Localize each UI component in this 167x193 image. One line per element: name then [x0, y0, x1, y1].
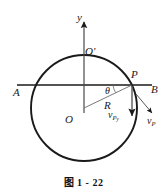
- point-b-label: B: [151, 84, 158, 95]
- circle-center-label: O: [65, 114, 73, 125]
- velocity-y-subscript-y: y: [116, 116, 118, 122]
- velocity-y-subscript: Py: [112, 114, 118, 121]
- figure-caption: 图 1 - 22: [0, 174, 167, 189]
- velocity-p-arrow: [136, 94, 152, 113]
- physics-diagram: [0, 0, 167, 193]
- y-axis-label: y: [77, 12, 82, 23]
- angle-theta-label: θ: [105, 86, 110, 96]
- point-p-label: P: [131, 69, 138, 80]
- velocity-p-subscript: P: [151, 120, 155, 127]
- figure-container: y O' A B P θ R vPy vP O 图 1 - 22: [0, 0, 167, 193]
- angle-arc: [113, 85, 116, 93]
- velocity-y-component-label: vPy: [108, 110, 119, 122]
- velocity-p-label: vP: [147, 116, 155, 127]
- point-a-label: A: [13, 87, 20, 98]
- point-o-prime-label: O': [85, 46, 95, 57]
